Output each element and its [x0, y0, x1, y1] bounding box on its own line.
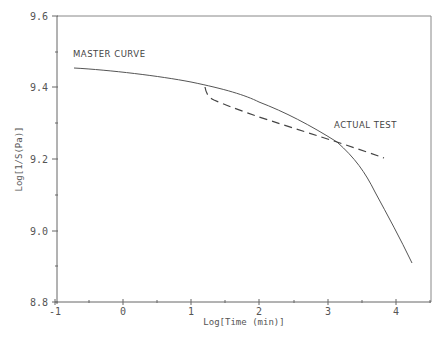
actual-test-annotation: ACTUAL TEST [334, 120, 397, 130]
y-tick-label: 9.6 [30, 11, 48, 22]
plot-frame [55, 16, 431, 304]
y-tick-label: 8.8 [30, 297, 48, 308]
x-tick-labels: -1 0 1 2 3 4 [49, 306, 399, 317]
y-axis-label: Log[1/S(Pa)] [14, 126, 24, 191]
x-tick-label: 3 [325, 306, 331, 317]
x-tick-label: 2 [256, 306, 262, 317]
y-tick-label: 9.4 [30, 82, 48, 93]
y-tick-labels: 8.8 9.0 9.2 9.4 9.6 [30, 11, 48, 308]
y-tick-label: 9.2 [30, 154, 48, 165]
x-tick-label: 4 [393, 306, 399, 317]
x-axis-label: Log[Time (min)] [203, 317, 284, 327]
master-curve-annotation: MASTER CURVE [73, 49, 146, 59]
creep-compliance-chart: 8.8 9.0 9.2 9.4 9.6 -1 0 1 2 3 4 Log[Tim… [0, 0, 448, 342]
master-curve-line [74, 68, 412, 263]
x-tick-label: 0 [120, 306, 126, 317]
y-tick-label: 9.0 [30, 226, 48, 237]
x-tick-label: 1 [188, 306, 194, 317]
x-tick-label: -1 [49, 306, 61, 317]
